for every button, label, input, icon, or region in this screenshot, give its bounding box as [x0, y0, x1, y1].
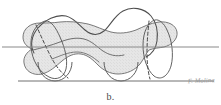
artist-signature: F. Molina	[188, 76, 215, 84]
figure-caption-label: b.	[0, 91, 221, 103]
figure-drawing	[0, 0, 221, 105]
figure-container: F. Molina b.	[0, 0, 221, 105]
